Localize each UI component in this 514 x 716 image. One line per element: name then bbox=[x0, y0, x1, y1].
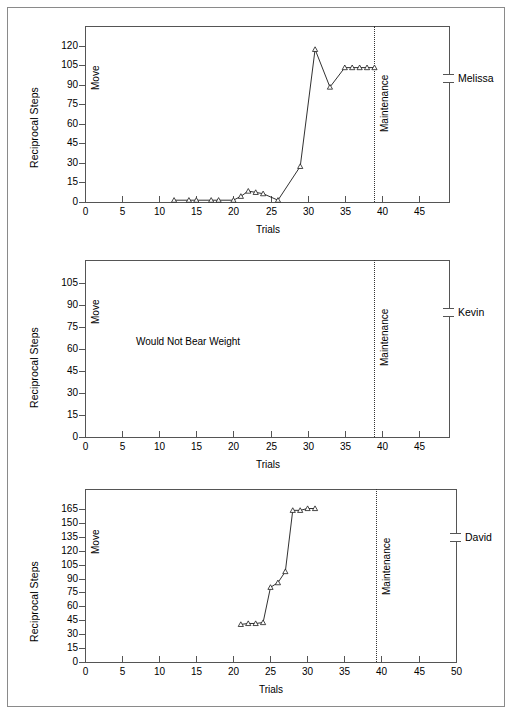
data-point-marker bbox=[246, 189, 251, 194]
data-point-marker bbox=[298, 164, 303, 169]
series-kevin bbox=[8, 246, 506, 478]
series-polyline bbox=[174, 49, 374, 200]
data-point-marker bbox=[268, 585, 273, 590]
panel-david: Reciprocal Steps 165 150 135 120 105 90 … bbox=[8, 478, 506, 708]
data-point-marker bbox=[260, 620, 265, 625]
data-point-marker bbox=[283, 569, 288, 574]
data-point-marker bbox=[238, 194, 243, 199]
data-point-marker bbox=[275, 580, 280, 585]
series-david bbox=[8, 478, 506, 708]
series-melissa bbox=[8, 8, 506, 246]
data-point-marker bbox=[312, 47, 317, 52]
series-polyline bbox=[241, 509, 315, 625]
panel-kevin: Reciprocal Steps 105 90 75 60 45 30 15 0… bbox=[8, 246, 506, 478]
figure-frame: Reciprocal Steps 120 105 90 75 60 45 30 … bbox=[7, 7, 505, 707]
data-point-marker bbox=[275, 198, 280, 203]
panel-melissa: Reciprocal Steps 120 105 90 75 60 45 30 … bbox=[8, 8, 506, 246]
